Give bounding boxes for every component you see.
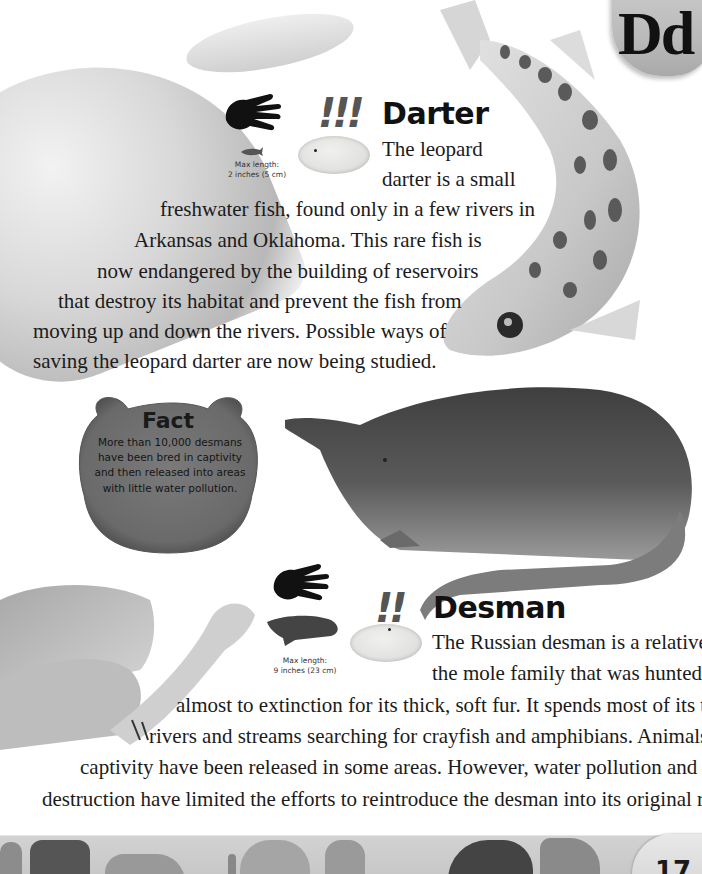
desman-text-line: The Russian desman is a relative of: [432, 632, 702, 653]
manatee-thumbnail-icon: [240, 840, 310, 874]
darter-text-line: now endangered by the building of reserv…: [97, 261, 478, 282]
darter-heading: Darter: [382, 96, 488, 131]
gorilla-thumbnail-icon: [325, 840, 365, 874]
russian-desman-illustration: [280, 370, 700, 620]
desman-text-line: almost to extinction for its thick, soft…: [176, 695, 702, 716]
darter-text-line: freshwater fish, found only in a few riv…: [160, 199, 535, 220]
desman-text-line: destruction have limited the efforts to …: [42, 789, 702, 810]
desman-heading: Desman: [433, 590, 566, 625]
beluga-whale-tail-illustration: [182, 6, 357, 79]
sea-lion-thumbnail-icon: [540, 838, 600, 874]
darter-max-length-label: Max length:: [222, 160, 292, 170]
range-marker-icon: [314, 149, 317, 152]
tail-thumbnail-icon: [228, 854, 236, 874]
sloth-illustration: [0, 560, 270, 750]
desman-text-line: the mole family that was hunted: [432, 663, 702, 684]
footer-animal-band: [0, 835, 702, 874]
dinosaur-thumbnail-icon: [0, 842, 22, 874]
darter-text-line: that destroy its habitat and prevent the…: [58, 291, 462, 312]
fact-text: More than 10,000 desmans have been bred …: [90, 435, 250, 496]
desman-max-length-label: Max length:: [265, 656, 345, 666]
range-marker-icon: [388, 628, 391, 631]
hand-size-comparison-icon: [222, 92, 282, 136]
desman-silhouette-icon: [265, 612, 341, 648]
fact-title: Fact: [68, 408, 268, 433]
darter-text-line: darter is a small: [382, 169, 516, 190]
world-map-range-icon: [350, 624, 422, 662]
letter-tab: Dd: [612, 0, 702, 76]
desman-text-line: captivity have been released in some are…: [80, 757, 702, 778]
fish-silhouette-icon: [240, 145, 264, 157]
darter-endangered-rating: !!!: [318, 93, 361, 133]
dolphin-thumbnail-icon: [448, 840, 533, 874]
hand-size-comparison-icon: [270, 562, 330, 606]
darter-max-length-value: 2 inches (5 cm): [222, 170, 292, 180]
darter-text-line: Arkansas and Oklahoma. This rare fish is: [134, 230, 482, 251]
lemur-thumbnail-icon: [30, 840, 90, 874]
world-map-range-icon: [298, 136, 370, 174]
darter-max-length: Max length: 2 inches (5 cm): [222, 160, 292, 180]
letter-tab-label: Dd: [618, 0, 693, 69]
desman-max-length-value: 9 inches (23 cm): [265, 666, 345, 676]
darter-text-line: The leopard: [382, 139, 483, 160]
page-number: 17: [655, 856, 691, 874]
desman-max-length: Max length: 9 inches (23 cm): [265, 656, 345, 676]
darter-text-line: moving up and down the rivers. Possible …: [33, 321, 447, 342]
thylacine-thumbnail-icon: [105, 854, 185, 874]
desman-endangered-rating: !!: [375, 588, 403, 628]
darter-text-line: saving the leopard darter are now being …: [33, 351, 437, 372]
desman-text-line: rivers and streams searching for crayfis…: [149, 726, 702, 747]
